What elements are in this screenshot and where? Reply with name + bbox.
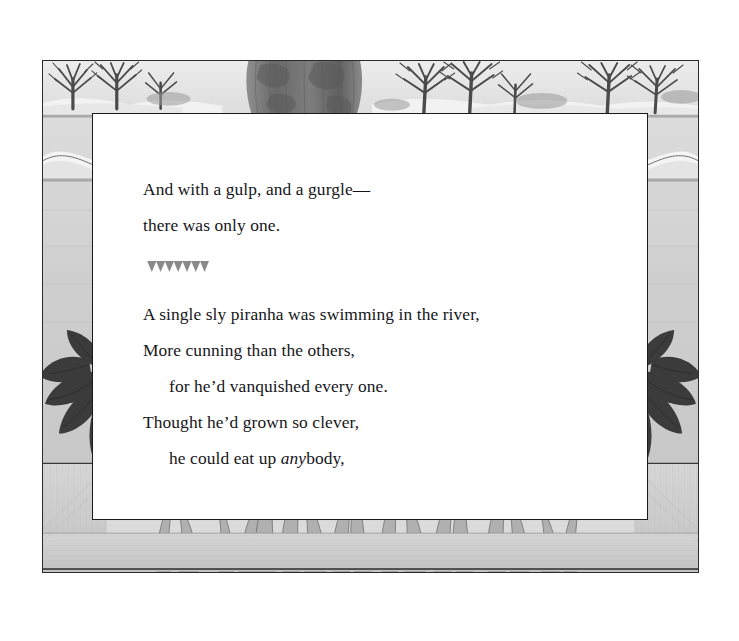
poem-line: there was only one. [143, 207, 613, 243]
stanza-gap [143, 243, 613, 261]
poem-italic-word: any [281, 448, 306, 468]
poem-body: And with a gulp, and a gurgle— there was… [143, 171, 613, 476]
stanza-gap [143, 274, 613, 296]
poem-line: Thought he’d grown so clever, [143, 404, 613, 440]
poem-text-after: body, [306, 448, 345, 468]
poem-line: More cunning than the others, [143, 332, 613, 368]
poem-text-box: And with a gulp, and a gurgle— there was… [92, 113, 648, 520]
poem-line: And with a gulp, and a gurgle— [143, 171, 613, 207]
top-shoreline-band [43, 61, 698, 119]
book-page: And with a gulp, and a gurgle— there was… [0, 0, 739, 641]
poem-line: for he’d vanquished every one. [143, 368, 613, 404]
poem-line-emphasis: he could eat up anybody, [143, 440, 613, 476]
poem-text-before: he could eat up [169, 448, 281, 468]
sawtooth-divider-icon [147, 261, 209, 274]
poem-line: A single sly piranha was swimming in the… [143, 296, 613, 332]
